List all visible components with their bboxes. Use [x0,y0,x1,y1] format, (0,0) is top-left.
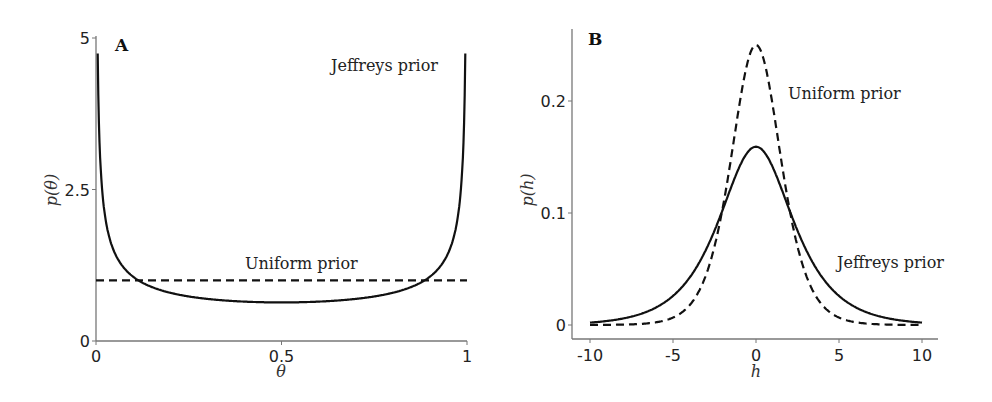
panel-a-uniform-label: Uniform prior [245,254,358,273]
y-tick-label: 0 [80,332,90,351]
panel-a-y-label: p(θ) [42,174,61,206]
x-tick-label: 1 [462,347,472,366]
panel-b: -10-5051000.10.2 B Uniform prior Jeffrey… [518,29,944,381]
y-tick-label: 0.2 [541,92,566,111]
panel-b-y-label: p(h) [518,173,537,206]
figure: 00.5102.55 A Jeffreys prior Uniform prio… [0,0,992,402]
x-tick-label: 10 [912,346,932,365]
panel-b-x-label: h [751,362,761,381]
y-tick-label: 0.1 [541,204,566,223]
y-tick-label: 5 [80,29,90,48]
y-tick-label: 0 [556,316,566,335]
panel-a: 00.5102.55 A Jeffreys prior Uniform prio… [42,29,472,381]
y-tick-label: 2.5 [65,181,90,200]
panel-b-label: B [588,29,602,49]
panel-b-jeffreys-curve [590,147,922,323]
panel-a-jeffreys-label: Jeffreys prior [329,56,438,75]
panel-a-x-label: θ [276,362,286,381]
x-tick-label: 5 [834,346,844,365]
panel-a-label: A [114,35,129,55]
panel-a-ticks: 00.5102.55 [65,29,473,366]
panel-b-jeffreys-label: Jeffreys prior [835,253,944,272]
x-tick-label: -10 [577,346,603,365]
panel-b-uniform-label: Uniform prior [788,84,901,103]
x-tick-label: 0 [91,347,101,366]
x-tick-label: -5 [665,346,681,365]
